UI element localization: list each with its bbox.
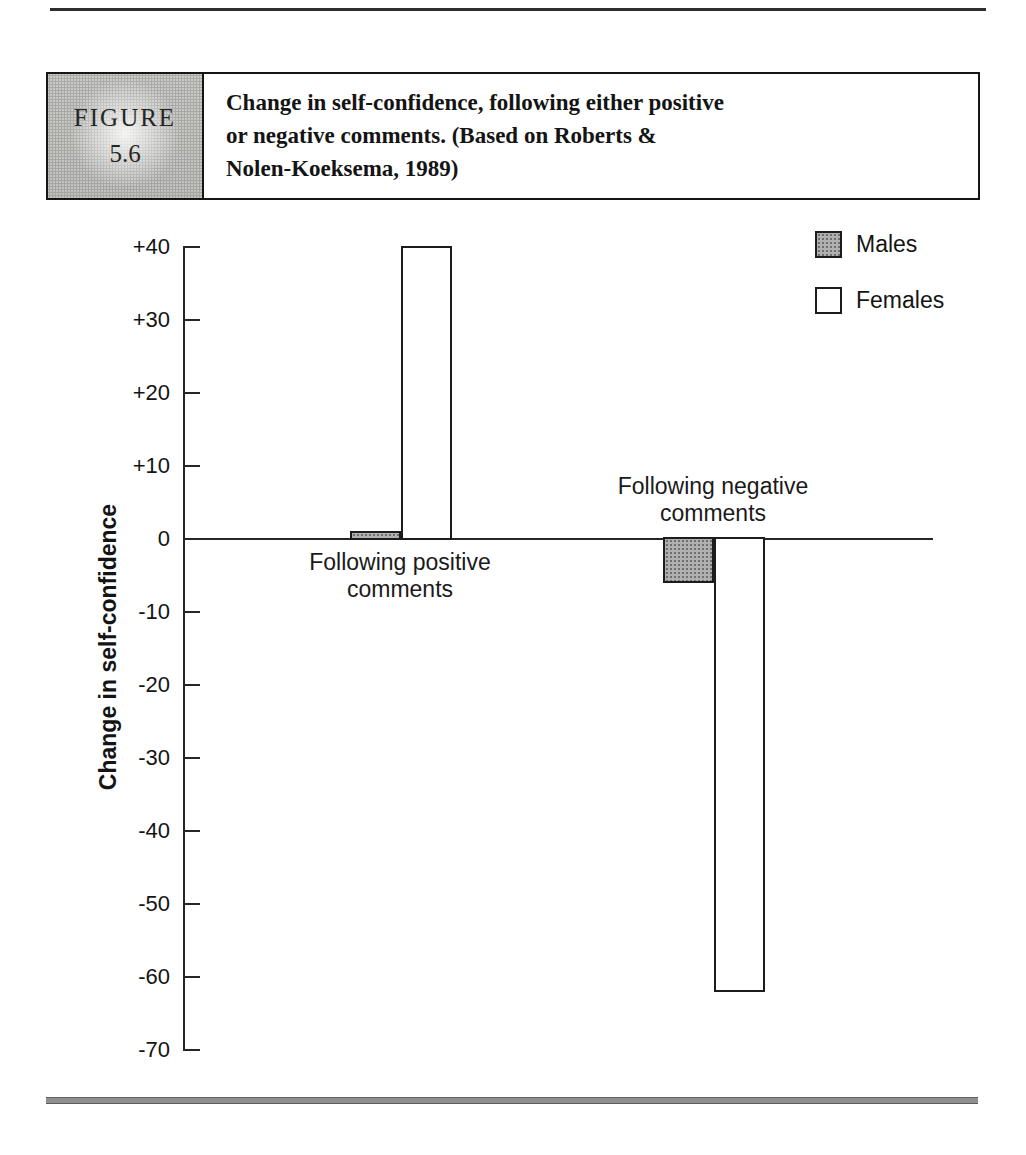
y-tick-label: -60 bbox=[98, 963, 170, 991]
y-tick-label: +20 bbox=[98, 379, 170, 407]
y-tick-label: -50 bbox=[98, 890, 170, 918]
y-tick bbox=[185, 611, 200, 613]
figure-page: FIGURE 5.6 Change in self-confidence, fo… bbox=[0, 0, 1026, 1155]
y-tick-label: +30 bbox=[98, 306, 170, 334]
figure-caption: Change in self-confidence, following eit… bbox=[204, 74, 978, 198]
y-tick bbox=[185, 976, 200, 978]
bar-females-negative bbox=[714, 537, 765, 992]
figure-number-box: FIGURE 5.6 bbox=[48, 74, 204, 198]
category-label-positive-line2: comments bbox=[270, 576, 530, 603]
y-tick-label: +10 bbox=[98, 452, 170, 480]
category-label-positive-line1: Following positive bbox=[270, 549, 530, 576]
bar-females-positive bbox=[401, 246, 452, 540]
caption-line-2: or negative comments. (Based on Roberts … bbox=[226, 119, 968, 152]
y-tick-label: -30 bbox=[98, 744, 170, 772]
bottom-rule bbox=[46, 1097, 978, 1104]
category-label-positive: Following positive comments bbox=[270, 549, 530, 603]
bar-males-positive bbox=[350, 531, 401, 540]
y-tick bbox=[185, 757, 200, 759]
y-tick bbox=[185, 319, 200, 321]
figure-header: FIGURE 5.6 Change in self-confidence, fo… bbox=[46, 72, 980, 200]
bar-males-negative bbox=[663, 537, 714, 583]
y-tick-label: -40 bbox=[98, 817, 170, 845]
y-tick bbox=[185, 903, 200, 905]
category-label-negative-line1: Following negative bbox=[583, 473, 843, 500]
category-label-negative: Following negative comments bbox=[583, 473, 843, 527]
y-tick-label: -10 bbox=[98, 598, 170, 626]
figure-number: 5.6 bbox=[109, 140, 140, 168]
y-tick-label: -70 bbox=[98, 1036, 170, 1064]
y-tick bbox=[185, 830, 200, 832]
top-rule bbox=[50, 8, 986, 11]
y-tick bbox=[185, 1049, 200, 1051]
y-tick-label: -20 bbox=[98, 671, 170, 699]
legend-swatch-females bbox=[815, 287, 842, 314]
legend-label-females: Females bbox=[856, 287, 944, 314]
legend-swatch-males bbox=[815, 231, 842, 258]
y-axis-line bbox=[183, 246, 185, 1051]
figure-word: FIGURE bbox=[74, 104, 176, 132]
y-axis-title: Change in self-confidence bbox=[93, 347, 123, 947]
y-tick bbox=[185, 246, 200, 248]
y-tick bbox=[185, 392, 200, 394]
y-tick-label: 0 bbox=[98, 525, 170, 553]
y-tick bbox=[185, 465, 200, 467]
category-label-negative-line2: comments bbox=[583, 500, 843, 527]
caption-line-1: Change in self-confidence, following eit… bbox=[226, 86, 968, 119]
caption-line-3: Nolen-Koeksema, 1989) bbox=[226, 152, 968, 185]
legend-label-males: Males bbox=[856, 231, 917, 258]
y-tick bbox=[185, 684, 200, 686]
zero-baseline bbox=[183, 538, 933, 540]
y-tick-label: +40 bbox=[98, 233, 170, 261]
